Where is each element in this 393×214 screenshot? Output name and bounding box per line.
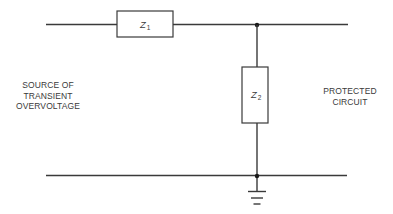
protected-circuit-label: PROTECTED CIRCUIT <box>323 86 376 107</box>
svg-text:CIRCUIT: CIRCUIT <box>332 97 367 107</box>
svg-text:SOURCE OF: SOURCE OF <box>22 80 73 90</box>
z1-impedance: Z1 <box>117 11 173 37</box>
svg-text:TRANSIENT: TRANSIENT <box>23 91 72 101</box>
source-label: SOURCE OF TRANSIENT OVERVOLTAGE <box>16 80 80 111</box>
ground-icon <box>248 192 266 205</box>
svg-text:OVERVOLTAGE: OVERVOLTAGE <box>16 101 80 111</box>
z2-impedance: Z2 <box>242 67 268 123</box>
bottom-junction-dot <box>255 174 259 178</box>
circuit-diagram: Z1 Z2 SOURCE OF TRANSIENT OVERVOLTAGE PR… <box>0 0 393 214</box>
svg-text:PROTECTED: PROTECTED <box>323 86 376 96</box>
